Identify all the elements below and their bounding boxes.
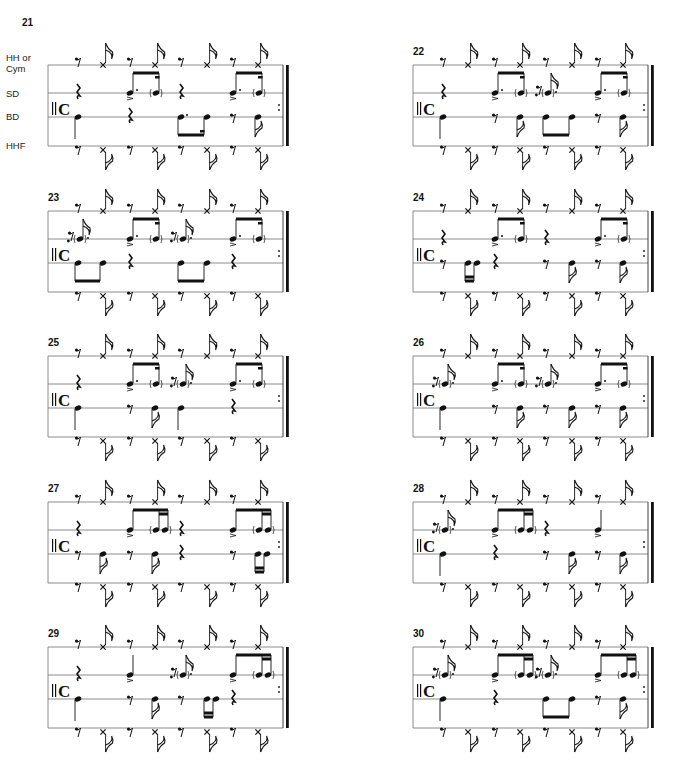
partial-beam (155, 222, 160, 225)
repeat-dot (643, 104, 645, 106)
exercise-27: C (48, 480, 289, 607)
repeat-dot (643, 541, 645, 543)
flag (186, 364, 193, 380)
common-time-signature: C (58, 682, 70, 701)
exercise-23: C (48, 189, 289, 316)
flag (448, 655, 455, 671)
x-notehead (255, 438, 260, 443)
beam (601, 363, 627, 366)
common-time-signature: C (58, 246, 70, 265)
flag (106, 43, 113, 59)
flag (523, 591, 530, 607)
percussion-clef-bar (417, 539, 418, 552)
x-notehead (152, 293, 157, 298)
flag (471, 445, 478, 461)
accent (595, 534, 601, 537)
percussion-clef-bar (417, 248, 418, 261)
sixteenth-rest-dot (432, 531, 435, 534)
beam (601, 72, 627, 75)
common-time-signature: C (58, 391, 70, 410)
flag (471, 334, 478, 350)
flag (210, 480, 217, 496)
quarter-rest (232, 690, 235, 705)
flag (471, 480, 478, 496)
flag (523, 154, 530, 170)
accent (492, 97, 498, 100)
quarter-rest (77, 84, 80, 99)
common-time-signature: C (58, 100, 70, 119)
flag (158, 154, 165, 170)
flag (626, 591, 633, 607)
end-thick-barline (651, 502, 654, 583)
x-notehead (204, 147, 209, 152)
flag (210, 445, 217, 461)
flag (106, 334, 113, 350)
sixteenth-rest-dot (432, 385, 435, 388)
common-time-signature: C (423, 246, 435, 265)
x-notehead (465, 584, 470, 589)
beam (498, 509, 533, 512)
sixteenth-rest-dot (170, 385, 173, 388)
percussion-clef-bar (417, 684, 418, 697)
beam (133, 218, 159, 221)
flag (210, 300, 217, 316)
end-thick-barline (651, 356, 654, 437)
flag (186, 655, 193, 671)
quarter-rest (77, 375, 80, 390)
aug-dot (239, 89, 241, 91)
x-notehead (100, 584, 105, 589)
flag (471, 189, 478, 205)
partial-beam (258, 76, 263, 79)
flag (523, 736, 530, 752)
flag (210, 334, 217, 350)
x-notehead (569, 729, 574, 734)
flag (471, 591, 478, 607)
x-notehead (517, 584, 522, 589)
flag (210, 736, 217, 752)
beam (543, 716, 569, 719)
percussion-clef-bar (420, 684, 421, 697)
sixteenth-rest-dot (432, 676, 435, 679)
end-thick-barline (286, 211, 289, 292)
repeat-dot (278, 104, 280, 106)
beam (498, 363, 524, 366)
flag (261, 625, 268, 641)
x-notehead (255, 584, 260, 589)
x-notehead (100, 147, 105, 152)
partial-beam (155, 76, 160, 79)
percussion-clef-bar (420, 102, 421, 115)
percussion-clef-bar (420, 539, 421, 552)
flag (106, 736, 113, 752)
quarter-rest (180, 521, 183, 536)
accent (127, 534, 133, 537)
aug-dot (190, 673, 192, 675)
accent (492, 388, 498, 391)
flag (158, 591, 165, 607)
flag (152, 703, 159, 719)
x-notehead (620, 147, 625, 152)
beam (204, 712, 213, 715)
x-notehead (517, 293, 522, 298)
flag (210, 591, 217, 607)
aug-dot (501, 380, 503, 382)
flag (106, 154, 113, 170)
beam (178, 280, 204, 283)
common-time-signature: C (423, 537, 435, 556)
accent (230, 388, 236, 391)
accent (595, 243, 601, 246)
flag (620, 267, 627, 283)
percussion-clef-bar (55, 684, 56, 697)
flag (158, 334, 165, 350)
percussion-clef-bar (52, 248, 53, 261)
accent (127, 679, 133, 682)
x-notehead (152, 729, 157, 734)
x-notehead (204, 293, 209, 298)
beam (524, 658, 533, 661)
x-notehead (255, 729, 260, 734)
aug-dot (136, 235, 138, 237)
aug-dot (501, 89, 503, 91)
aug-dot (555, 673, 557, 675)
x-notehead (465, 147, 470, 152)
accent (595, 97, 601, 100)
beam (262, 658, 271, 661)
